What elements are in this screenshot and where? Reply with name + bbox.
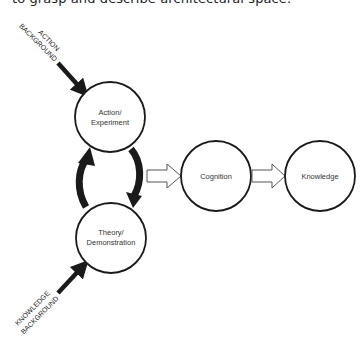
knowledge-background-arrow [58, 265, 84, 293]
knowledge-background-label: KNOWLEDGE BACKGROUND [12, 288, 60, 336]
node-knowledge: Knowledge [285, 141, 355, 211]
node-knowledge-label: Knowledge [301, 172, 338, 181]
node-action-experiment: Action/ Experiment [75, 82, 145, 152]
arrow-to-cognition [147, 164, 181, 188]
node-theory-demonstration: Theory/ Demonstration [76, 203, 146, 273]
node-action-line2: Experiment [91, 118, 130, 127]
action-background-arrow [58, 63, 84, 92]
node-cognition: Cognition [181, 141, 251, 211]
node-action-line1: Action/ [99, 108, 123, 117]
node-cognition-label: Cognition [200, 172, 232, 181]
learning-cycle-diagram: ACTION BACKGROUND KNOWLEDGE BACKGROUND A… [0, 0, 364, 343]
feedback-arrow-up [78, 147, 95, 207]
feedback-arrow-down [126, 149, 142, 208]
arrow-to-knowledge [252, 164, 285, 188]
node-theory-line1: Theory/ [98, 228, 124, 237]
action-background-label: ACTION BACKGROUND [18, 16, 65, 63]
node-theory-line2: Demonstration [87, 238, 136, 247]
